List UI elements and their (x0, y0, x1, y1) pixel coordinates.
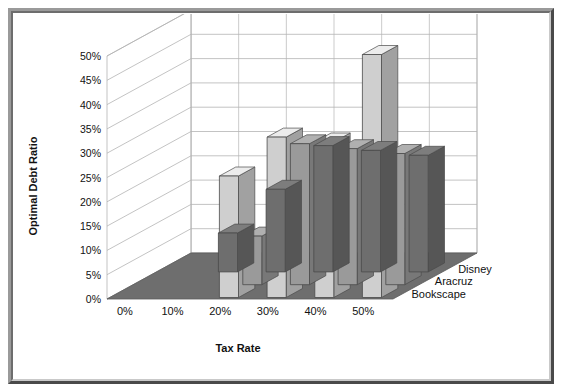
figure-frame: 0%5%10%15%20%25%30%35%40%45%50% 0%10%20%… (0, 0, 562, 392)
y-tick-label: 30% (80, 147, 101, 159)
bar-chart-3d: 0%5%10%15%20%25%30%35%40%45%50% 0%10%20%… (0, 0, 562, 392)
bar-disney-30% (314, 137, 349, 272)
x-tick-label: 10% (161, 305, 183, 317)
bar-disney-10% (218, 224, 253, 272)
bar-disney-50% (409, 146, 444, 272)
y-axis-ticks: 0%5%10%15%20%25%30%35%40%45%50% (80, 50, 101, 305)
x-tick-label: 30% (257, 305, 279, 317)
series-label-aracruz: Aracruz (435, 275, 473, 287)
x-tick-label: 20% (209, 305, 231, 317)
y-tick-label: 40% (80, 99, 101, 111)
x-tick-label: 40% (304, 305, 326, 317)
x-axis-title: Tax Rate (215, 342, 260, 354)
x-tick-label: 50% (352, 305, 374, 317)
y-tick-label: 10% (80, 244, 101, 256)
y-tick-label: 20% (80, 196, 101, 208)
y-tick-label: 15% (80, 220, 101, 232)
x-axis-ticks: 0%10%20%30%40%50% (117, 305, 375, 317)
series-label-disney: Disney (458, 263, 492, 275)
bar-disney-40% (361, 142, 396, 272)
y-axis-title: Optimal Debt Ratio (27, 136, 39, 235)
y-tick-label: 50% (80, 50, 101, 62)
y-tick-label: 0% (86, 293, 101, 305)
x-tick-label: 0% (117, 305, 133, 317)
y-tick-label: 45% (80, 74, 101, 86)
series-label-bookscape: Bookscape (412, 288, 466, 300)
y-tick-label: 5% (86, 269, 101, 281)
bar-disney-20% (266, 180, 301, 272)
y-tick-label: 35% (80, 123, 101, 135)
y-tick-label: 25% (80, 172, 101, 184)
